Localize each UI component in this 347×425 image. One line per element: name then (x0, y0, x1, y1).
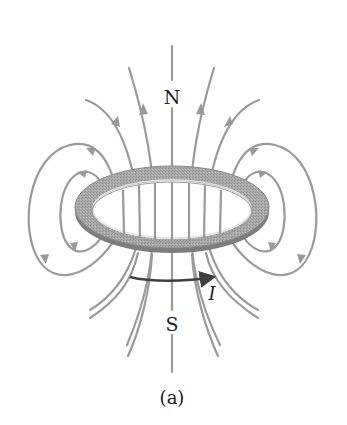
diagram-canvas: N S I (a) (0, 0, 347, 425)
arrow-icon (86, 148, 96, 156)
north-pole-label: N (164, 86, 181, 108)
arrow-icon (249, 148, 259, 156)
current-label: I (207, 283, 216, 304)
south-pole-label: S (165, 313, 178, 335)
magnetic-field-of-current-loop-figure: N S I (a) (0, 0, 347, 425)
field-lines-lower (90, 253, 258, 356)
arrow-icon (224, 116, 233, 127)
figure-caption: (a) (160, 387, 185, 408)
